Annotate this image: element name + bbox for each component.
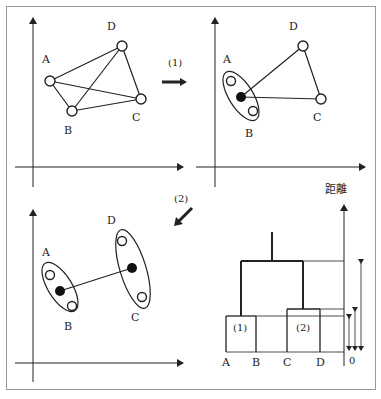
label-d: D bbox=[289, 20, 298, 33]
label-a: A bbox=[41, 246, 51, 259]
step-1-arrowhead-icon bbox=[180, 78, 187, 86]
distance-axis-label: 距離 bbox=[325, 182, 347, 196]
point-c bbox=[316, 94, 326, 104]
leaf-b: B bbox=[252, 356, 260, 369]
leaf-d: D bbox=[316, 356, 325, 369]
label-c: C bbox=[132, 111, 140, 124]
link-ab-cd bbox=[60, 268, 132, 291]
leaf-a: A bbox=[221, 356, 231, 369]
dendrogram: 距離 0 (1) (2) A B C D bbox=[221, 182, 361, 369]
leaf-c: C bbox=[283, 356, 291, 369]
point-d bbox=[298, 41, 308, 51]
point-c bbox=[138, 293, 147, 302]
centroid-ab bbox=[55, 286, 65, 296]
point-d bbox=[117, 41, 127, 51]
point-a bbox=[45, 76, 55, 86]
centroid-ab bbox=[236, 92, 246, 102]
label-d: D bbox=[107, 20, 116, 33]
step-2-label: (2) bbox=[174, 193, 188, 204]
point-a bbox=[46, 271, 55, 280]
label-a: A bbox=[222, 53, 232, 66]
panel-2-merge-ab: A B C D bbox=[196, 18, 365, 187]
point-b bbox=[249, 107, 258, 116]
point-d bbox=[118, 237, 127, 246]
label-c: C bbox=[131, 311, 139, 324]
zero-label: 0 bbox=[349, 355, 355, 366]
step-1-label: (1) bbox=[168, 57, 182, 68]
point-b bbox=[68, 302, 77, 311]
point-c bbox=[136, 94, 146, 104]
point-a bbox=[227, 77, 236, 86]
label-b: B bbox=[245, 127, 253, 140]
cluster-2-label: (2) bbox=[296, 322, 310, 333]
label-d: D bbox=[107, 214, 116, 227]
panel-3-merge-cd: A B C D bbox=[15, 210, 183, 382]
cluster-1-label: (1) bbox=[233, 322, 247, 333]
label-a: A bbox=[41, 53, 51, 66]
centroid-cd bbox=[127, 263, 137, 273]
label-c: C bbox=[313, 111, 321, 124]
label-b: B bbox=[64, 320, 72, 333]
step-2-arrow bbox=[179, 208, 192, 221]
point-b bbox=[67, 106, 77, 116]
label-b: B bbox=[64, 124, 72, 137]
panel-1-complete-graph: A B C D bbox=[15, 18, 183, 187]
clustering-diagram: A B C D (1) A B C D (2) bbox=[0, 0, 381, 399]
